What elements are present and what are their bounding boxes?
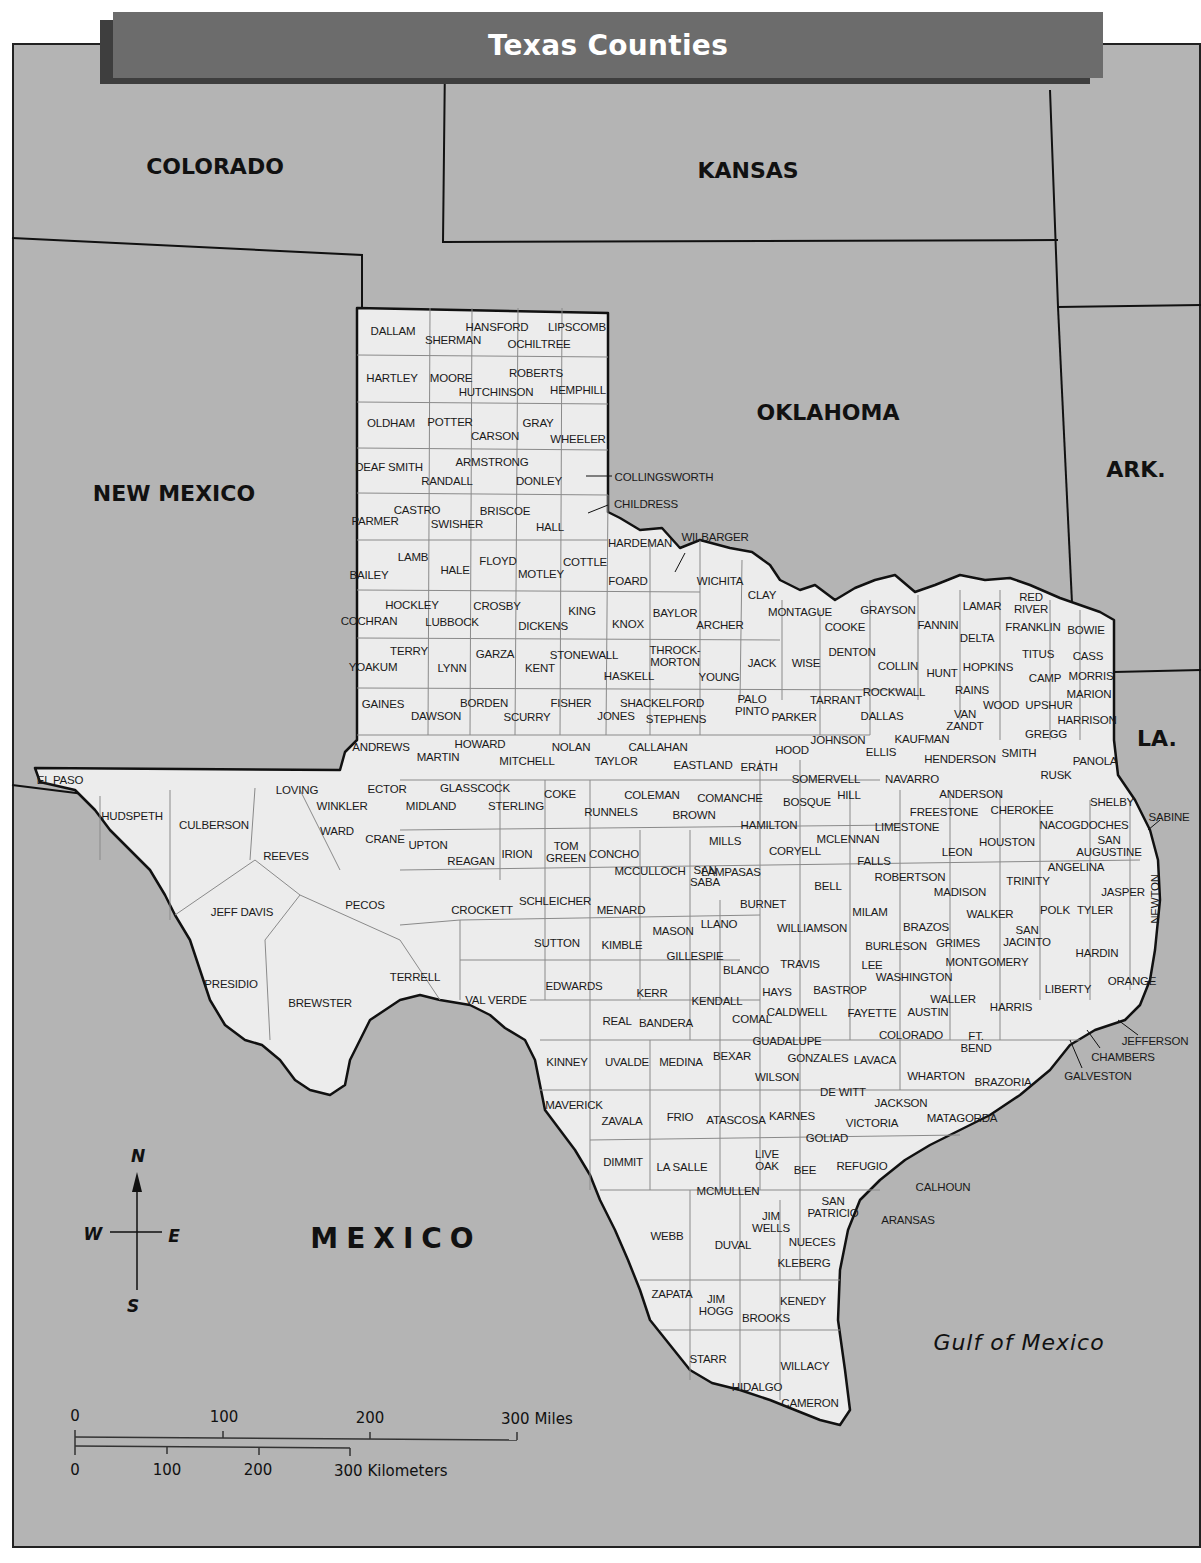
county-label: BOWIE bbox=[1067, 624, 1104, 636]
county-label: CHEROKEE bbox=[991, 804, 1054, 816]
county-label: CASTRO bbox=[394, 504, 441, 516]
county-label: WOOD bbox=[983, 699, 1019, 711]
county-label: HASKELL bbox=[604, 670, 654, 682]
county-label: JIMWELLS bbox=[752, 1210, 790, 1234]
county-label: AUSTIN bbox=[908, 1006, 949, 1018]
county-label: DIMMIT bbox=[603, 1156, 643, 1168]
county-label: HUDSPETH bbox=[101, 810, 163, 822]
county-label: HALE bbox=[440, 564, 469, 576]
county-label: COLEMAN bbox=[624, 789, 679, 801]
county-label: COOKE bbox=[825, 621, 866, 633]
county-label: WILLIAMSON bbox=[777, 922, 847, 934]
region-louisiana: LA. bbox=[1137, 726, 1177, 751]
county-label: GONZALES bbox=[787, 1052, 848, 1064]
county-label-line: TOM bbox=[546, 840, 586, 852]
county-label: ARMSTRONG bbox=[456, 456, 529, 468]
county-label: HARDIN bbox=[1076, 947, 1119, 959]
county-label: ROCKWALL bbox=[863, 686, 926, 698]
county-label: VANZANDT bbox=[946, 708, 983, 732]
scale-km-end: 300 Kilometers bbox=[334, 1462, 448, 1480]
county-label: BOSQUE bbox=[783, 796, 831, 808]
county-label: WILBARGER bbox=[681, 531, 748, 543]
county-label: HENDERSON bbox=[924, 753, 996, 765]
county-label: GOLIAD bbox=[806, 1132, 848, 1144]
county-label: PARKER bbox=[771, 711, 816, 723]
county-label-line: OAK bbox=[755, 1160, 779, 1172]
county-label: NAVARRO bbox=[885, 773, 939, 785]
county-label: ARANSAS bbox=[881, 1214, 935, 1226]
scale-km-200: 200 bbox=[244, 1461, 273, 1479]
county-label: JASPER bbox=[1101, 886, 1145, 898]
county-label: MITCHELL bbox=[499, 755, 554, 767]
county-label: SUTTON bbox=[534, 937, 580, 949]
county-label: GLASSCOCK bbox=[440, 782, 510, 794]
county-label: MATAGORDA bbox=[927, 1112, 998, 1124]
county-label: TYLER bbox=[1077, 904, 1113, 916]
county-label: KENT bbox=[525, 662, 555, 674]
county-label: LUBBOCK bbox=[425, 616, 479, 628]
county-label: RANDALL bbox=[421, 475, 473, 487]
county-label: JEFF DAVIS bbox=[211, 906, 273, 918]
county-label: MENARD bbox=[597, 904, 646, 916]
county-label: POLK bbox=[1040, 904, 1070, 916]
title-bar: Texas Counties bbox=[113, 12, 1103, 78]
county-label: HALL bbox=[536, 521, 564, 533]
county-label: ZAVALA bbox=[601, 1115, 642, 1127]
county-label: COLORADO bbox=[879, 1029, 943, 1041]
county-label: COMANCHE bbox=[697, 792, 763, 804]
county-label: BROWN bbox=[672, 809, 715, 821]
county-label-line: SAN bbox=[807, 1195, 858, 1207]
county-label: BREWSTER bbox=[288, 997, 352, 1009]
county-label: COLLIN bbox=[878, 660, 918, 672]
county-label: SOMERVELL bbox=[792, 773, 860, 785]
county-label: LYNN bbox=[437, 662, 466, 674]
county-label: ANGELINA bbox=[1048, 861, 1105, 873]
county-label: JEFFERSON bbox=[1122, 1035, 1189, 1047]
county-label: CALDWELL bbox=[767, 1006, 827, 1018]
county-label: DONLEY bbox=[516, 475, 562, 487]
county-label: GUADALUPE bbox=[752, 1035, 821, 1047]
county-label: TITUS bbox=[1022, 648, 1054, 660]
county-label: PECOS bbox=[345, 899, 384, 911]
county-label: MAVERICK bbox=[545, 1099, 603, 1111]
county-label: COKE bbox=[544, 788, 576, 800]
county-label: SANPATRICIO bbox=[807, 1195, 858, 1219]
county-label: DELTA bbox=[960, 632, 994, 644]
county-label-line: SAN bbox=[1076, 834, 1141, 846]
county-label: BELL bbox=[814, 880, 841, 892]
county-label: WARD bbox=[320, 825, 354, 837]
county-label: ATASCOSA bbox=[706, 1114, 765, 1126]
county-label-line: THROCK- bbox=[650, 644, 701, 656]
county-label: HAMILTON bbox=[741, 819, 798, 831]
county-label: STERLING bbox=[488, 800, 544, 812]
county-label-line: SAN bbox=[1003, 924, 1051, 936]
county-label: HARRISON bbox=[1057, 714, 1116, 726]
county-label: HOOD bbox=[775, 744, 809, 756]
county-label: HEMPHILL bbox=[550, 384, 606, 396]
county-label: ANDERSON bbox=[939, 788, 1003, 800]
county-label: NEWTON bbox=[1149, 874, 1161, 924]
county-label: REAL bbox=[602, 1015, 631, 1027]
county-label: MEDINA bbox=[659, 1056, 703, 1068]
county-label: STEPHENS bbox=[646, 713, 706, 725]
county-label: HARDEMAN bbox=[608, 537, 672, 549]
county-label: CLAY bbox=[748, 589, 776, 601]
county-label: HAYS bbox=[762, 986, 792, 998]
scale-bar bbox=[75, 1430, 517, 1456]
county-label: BROOKS bbox=[742, 1312, 790, 1324]
county-label: DAWSON bbox=[411, 710, 461, 722]
county-label: DUVAL bbox=[715, 1239, 752, 1251]
county-label: NUECES bbox=[789, 1236, 836, 1248]
county-label: GAINES bbox=[362, 698, 404, 710]
county-label: REDRIVER bbox=[1014, 591, 1048, 615]
county-label: BRAZORIA bbox=[974, 1076, 1031, 1088]
scale-miles-100: 100 bbox=[210, 1408, 239, 1426]
county-label: BASTROP bbox=[813, 984, 867, 996]
county-label: LAMAR bbox=[963, 600, 1002, 612]
region-gulf-of-mexico: Gulf of Mexico bbox=[933, 1330, 1104, 1355]
county-label: MILAM bbox=[852, 906, 887, 918]
county-label: GRIMES bbox=[936, 937, 980, 949]
county-label: HILL bbox=[837, 789, 861, 801]
county-label: GREGG bbox=[1025, 728, 1067, 740]
scale-miles-200: 200 bbox=[356, 1409, 385, 1427]
